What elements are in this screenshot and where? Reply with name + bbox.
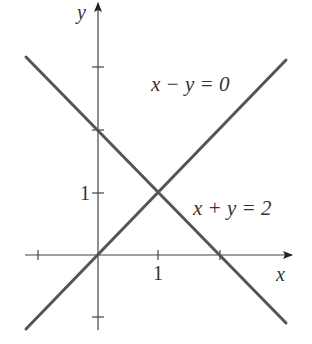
y-axis-label: y — [75, 1, 86, 24]
line-x-minus-y-eq-0 — [26, 60, 286, 329]
graph: y x 1 1 x − y = 0 x + y = 2 — [0, 0, 312, 344]
label-x-plus-y-eq-2: x + y = 2 — [192, 196, 272, 220]
y-tick-label-1: 1 — [80, 182, 90, 204]
x-axis-label: x — [275, 263, 285, 285]
x-tick-label-1: 1 — [153, 262, 163, 284]
label-x-minus-y-eq-0: x − y = 0 — [150, 72, 230, 96]
